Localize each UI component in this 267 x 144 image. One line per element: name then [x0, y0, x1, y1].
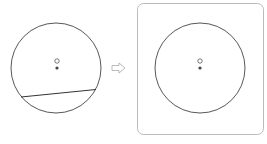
diagram-canvas: [0, 0, 267, 144]
right-figure: [138, 4, 264, 135]
left-figure: [11, 23, 101, 113]
solid-point: [55, 66, 58, 69]
hollow-point: [55, 59, 59, 63]
hollow-point: [198, 59, 202, 63]
solid-point: [198, 66, 201, 69]
right-arrow-icon: [112, 63, 125, 73]
chord-line: [21, 90, 96, 98]
